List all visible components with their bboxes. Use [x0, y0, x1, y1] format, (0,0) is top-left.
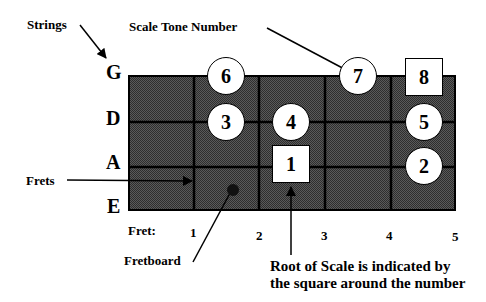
- string-label-e: E: [107, 196, 120, 216]
- root-note-line-1: Root of Scale is indicated by: [270, 258, 465, 275]
- scale-tone-number-label: Scale Tone Number: [129, 20, 237, 33]
- fret-number-3: 3: [321, 229, 328, 242]
- fretboard-label: Fretboard: [124, 254, 181, 267]
- string-label-d: D: [106, 108, 120, 128]
- strings-label: Strings: [27, 18, 67, 31]
- fret-number-5: 5: [452, 230, 459, 243]
- fretboard-dot: [227, 184, 239, 196]
- fret-number-1: 1: [190, 226, 197, 239]
- fretboard: [129, 76, 455, 210]
- fret-number-2: 2: [256, 229, 263, 242]
- string-label-g: G: [106, 62, 122, 82]
- scale-tone-4: 4: [272, 103, 310, 141]
- root-note-explanation: Root of Scale is indicated by the square…: [270, 258, 465, 292]
- scale-tone-6: 6: [207, 57, 245, 95]
- scale-tone-2: 2: [405, 147, 443, 185]
- frets-arrow: [67, 180, 192, 181]
- root-note-line-2: the square around the number: [270, 275, 465, 292]
- scale-tone-7: 7: [339, 57, 377, 95]
- strings-arrow: [80, 25, 106, 58]
- fret-number-4: 4: [386, 229, 393, 242]
- scale-tone-8-octave-root: 8: [405, 58, 443, 96]
- bass-scale-diagram: Strings Scale Tone Number Frets Fretboar…: [0, 0, 486, 302]
- scale-tone-5: 5: [405, 103, 443, 141]
- fret-caption: Fret:: [128, 224, 156, 237]
- scale-tone-arrow: [267, 28, 350, 72]
- string-label-a: A: [106, 152, 120, 172]
- frets-label: Frets: [26, 174, 55, 187]
- scale-tone-3: 3: [207, 103, 245, 141]
- scale-tone-1-root: 1: [272, 145, 310, 183]
